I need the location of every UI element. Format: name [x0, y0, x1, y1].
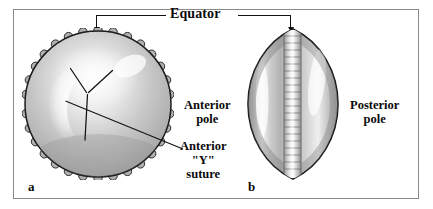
specimen-a-anterior-face — [22, 28, 174, 180]
y-suture-label-line1: Anterior — [180, 139, 227, 153]
anterior-pole-label: Anterior pole — [184, 98, 231, 126]
equator-label: Equator — [170, 7, 221, 21]
equator-bracket-left-rule — [96, 15, 166, 16]
y-suture-label-line3: suture — [180, 167, 227, 181]
posterior-pole-label: Posterior pole — [350, 98, 399, 126]
equator-bracket-right-rule — [238, 15, 291, 16]
specimen-b-lamellae-band — [284, 30, 301, 178]
specimen-b-equatorial-profile — [243, 28, 343, 180]
anterior-y-suture-label: Anterior "Y" suture — [180, 139, 227, 181]
y-suture-label-line2: "Y" — [180, 153, 227, 167]
posterior-pole-label-line2: pole — [350, 112, 399, 126]
posterior-pole-label-line1: Posterior — [350, 98, 399, 112]
anterior-pole-label-line1: Anterior — [184, 98, 231, 112]
lens-anatomy-figure: Equator — [0, 0, 433, 209]
specimen-a-illustration — [22, 28, 174, 180]
panel-letter-a: a — [28, 180, 35, 193]
panel-letter-b: b — [248, 180, 255, 193]
specimen-b-illustration — [243, 28, 343, 180]
anterior-pole-label-line2: pole — [184, 112, 231, 126]
